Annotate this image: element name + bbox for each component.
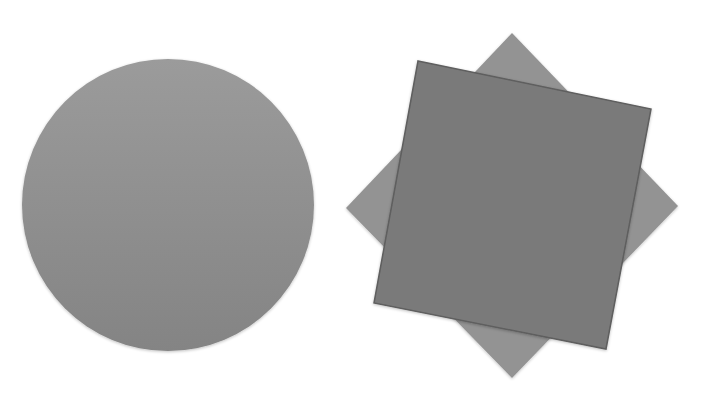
- rotated-square-shape[interactable]: [374, 61, 651, 349]
- circle-shape[interactable]: [22, 59, 314, 351]
- canvas: [0, 0, 702, 407]
- shapes-diagram: [0, 0, 702, 407]
